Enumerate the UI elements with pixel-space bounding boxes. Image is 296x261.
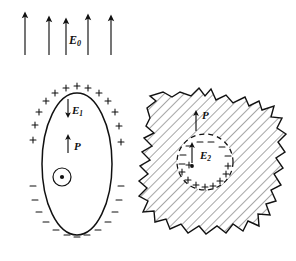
right-figure-cavity [130,80,296,245]
applied-field-arrow-group [25,15,111,55]
vector-out-of-page-icon [53,168,71,186]
applied-field-label: E0 [69,33,81,48]
cavity-field-label-e2: E2 [200,149,211,163]
polarization-label-p2: P [202,109,209,121]
cavity-center-dot [190,164,194,168]
depolarization-field-label-e1: E1 [72,104,83,118]
ellipsoid-negative-charge-group [30,186,124,237]
polarization-label-p1: P [74,140,81,152]
physics-diagram-canvas [0,0,296,261]
